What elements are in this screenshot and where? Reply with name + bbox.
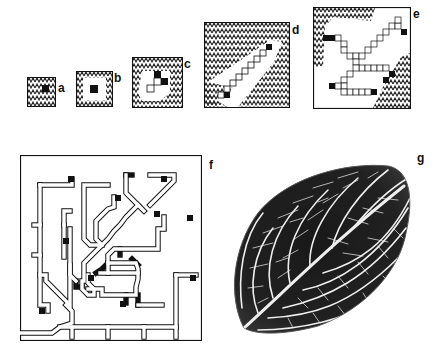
hatched-grid-a (27, 77, 56, 107)
panel-label-c: c (184, 58, 191, 70)
hatched-grid-b (76, 71, 113, 107)
panel-label-e: e (413, 8, 420, 20)
panel-e (313, 7, 411, 109)
leaf-venation-image (228, 158, 414, 336)
panel-d (204, 22, 290, 108)
hatched-grid-e (313, 7, 411, 109)
panel-label-b: b (114, 72, 121, 84)
panel-c (132, 57, 183, 108)
panel-label-d: d (292, 24, 299, 36)
active-cell (90, 85, 98, 93)
panel-g (228, 158, 414, 336)
panel-label-f: f (209, 159, 213, 171)
active-cell (42, 85, 49, 92)
panel-f (20, 155, 202, 341)
panel-label-a: a (58, 82, 65, 94)
network-grid-f (20, 155, 202, 341)
panel-a (27, 77, 56, 107)
panel-label-g: g (417, 152, 424, 164)
hatched-grid-c (132, 57, 183, 108)
hatched-grid-d (204, 22, 290, 108)
panel-b (76, 71, 113, 107)
